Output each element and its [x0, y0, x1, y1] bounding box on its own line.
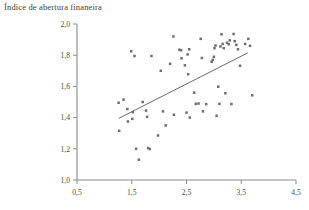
data-point: [247, 38, 250, 41]
data-point: [230, 103, 233, 106]
data-point: [214, 44, 217, 47]
data-point: [146, 116, 149, 119]
data-point: [195, 103, 198, 106]
data-point: [122, 98, 125, 101]
data-point: [222, 47, 225, 50]
data-point: [184, 64, 187, 67]
data-point: [135, 148, 138, 151]
data-point: [186, 53, 189, 56]
data-point: [220, 33, 223, 36]
data-point: [244, 43, 247, 46]
data-point: [251, 94, 254, 97]
data-point: [217, 85, 220, 88]
data-point: [127, 120, 130, 123]
x-tick-label: 0,5: [72, 188, 82, 197]
data-point: [249, 45, 252, 48]
data-point: [221, 43, 224, 46]
data-point: [224, 92, 227, 95]
data-point: [189, 116, 192, 119]
data-point: [193, 91, 196, 94]
data-point: [202, 110, 205, 113]
data-point: [172, 35, 175, 38]
data-point: [138, 158, 141, 161]
x-axis-ticks: 0,51,52,53,54,5: [72, 180, 301, 197]
data-point: [130, 50, 133, 53]
y-tick-label: 1,4: [61, 113, 71, 122]
data-point: [131, 118, 134, 121]
data-point: [160, 70, 163, 73]
data-point: [150, 55, 153, 58]
x-tick-label: 1,5: [127, 188, 137, 197]
data-point: [199, 38, 202, 41]
data-point: [185, 111, 188, 114]
data-point: [218, 103, 221, 106]
data-point: [205, 103, 208, 106]
data-point: [201, 57, 204, 60]
data-point: [157, 134, 160, 137]
data-point: [219, 45, 222, 48]
y-tick-label: 2,0: [61, 20, 71, 29]
data-point: [213, 56, 216, 59]
data-point: [180, 49, 183, 52]
y-tick-label: 1,0: [61, 176, 71, 185]
data-point: [232, 33, 235, 36]
data-point: [237, 48, 240, 51]
data-point: [229, 39, 232, 42]
axes: [77, 24, 296, 180]
data-point: [117, 102, 120, 105]
data-point: [149, 148, 152, 151]
data-point: [227, 43, 230, 46]
data-point: [169, 63, 172, 66]
data-point: [233, 40, 236, 43]
y-tick-label: 1,8: [61, 51, 71, 60]
data-point: [145, 109, 148, 112]
y-tick-label: 1,6: [61, 82, 71, 91]
data-point: [235, 44, 238, 47]
data-point: [187, 73, 190, 76]
data-point: [212, 59, 215, 62]
data-point: [162, 110, 165, 113]
data-point: [133, 55, 136, 58]
x-tick-label: 4,5: [291, 188, 301, 197]
data-point: [239, 65, 242, 68]
y-tick-label: 1,2: [61, 145, 71, 154]
x-tick-label: 3,5: [237, 188, 247, 197]
data-point: [141, 101, 144, 104]
scatter-plot-figure: Índice de abertura finaneira 1,01,21,41,…: [0, 0, 309, 210]
data-point: [197, 102, 200, 105]
y-axis-ticks: 1,01,21,41,61,82,0: [61, 20, 78, 185]
plot-canvas: 1,01,21,41,61,82,0 0,51,52,53,54,5: [0, 0, 309, 210]
data-point: [213, 47, 216, 50]
data-points: [117, 33, 253, 161]
x-tick-label: 2,5: [182, 188, 192, 197]
data-point: [173, 114, 176, 117]
data-point: [215, 114, 218, 117]
data-point: [188, 48, 191, 51]
data-point: [126, 108, 128, 111]
trend-line: [119, 53, 248, 119]
data-point: [164, 124, 167, 127]
data-point: [118, 130, 121, 133]
data-point: [180, 57, 183, 60]
